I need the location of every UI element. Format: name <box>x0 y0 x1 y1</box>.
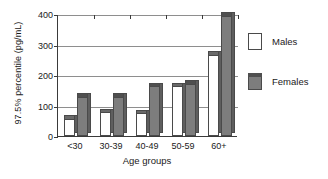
legend-swatch-females-icon <box>248 73 262 90</box>
y-axis-tick-label: 300 <box>38 41 53 50</box>
y-axis-tick-label: 200 <box>38 72 53 81</box>
x-axis-tick <box>202 15 203 19</box>
bar-females <box>113 97 124 136</box>
bar-group <box>130 14 166 136</box>
bar-males <box>100 112 111 136</box>
x-axis-tick-label: 50-59 <box>165 141 201 151</box>
bar-males <box>136 113 147 136</box>
bar-chart-figure: 97.5% percentile (pg/mL) 0100200300400 <… <box>0 0 328 179</box>
y-axis-title: 97.5% percentile (pg/mL) <box>13 3 23 143</box>
bar-females <box>149 86 160 136</box>
x-axis-tick-label: 30-39 <box>93 141 129 151</box>
x-axis-tick <box>94 15 95 19</box>
y-axis-tick-label: 400 <box>38 11 53 20</box>
bar-series-container <box>58 14 238 136</box>
legend-label-females: Females <box>272 76 308 87</box>
x-axis-tick-label: 40-49 <box>129 141 165 151</box>
x-axis-tick-labels: <3030-3940-4950-5960+ <box>57 141 237 155</box>
bar-males <box>64 119 75 136</box>
x-axis-tick <box>166 15 167 19</box>
bar-females <box>77 97 88 136</box>
bar-group <box>202 14 238 136</box>
x-axis-title: Age groups <box>57 155 237 166</box>
y-axis-tick-label: 100 <box>38 102 53 111</box>
plot-area: 0100200300400 <box>57 15 237 137</box>
x-axis-tick <box>238 15 239 19</box>
bar-males <box>208 55 219 136</box>
legend-swatch-males-icon <box>248 33 262 50</box>
bar-females <box>185 84 196 136</box>
x-axis-tick-label: 60+ <box>201 141 237 151</box>
bar-females <box>221 16 232 136</box>
bar-group <box>166 14 202 136</box>
x-axis-tick <box>130 15 131 19</box>
legend-label-males: Males <box>272 36 297 47</box>
bar-group <box>58 14 94 136</box>
bar-males <box>172 86 183 136</box>
bar-group <box>94 14 130 136</box>
y-axis-tick-label: 0 <box>48 133 53 142</box>
x-axis-tick-label: <30 <box>57 141 93 151</box>
y-axis-tick <box>54 137 58 138</box>
